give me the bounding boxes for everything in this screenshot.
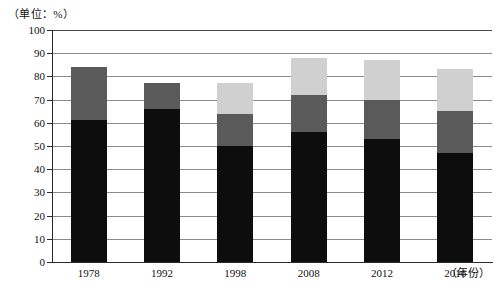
bar-segment-segment-3 [217, 83, 253, 113]
y-axis-tick-label: 60 [34, 117, 45, 128]
bar-segment-segment-1 [437, 153, 473, 262]
y-axis-tick-label: 100 [29, 25, 46, 36]
y-axis-unit-label: （单位：%） [8, 8, 74, 21]
bar-segment-segment-2 [144, 83, 180, 109]
bar-segment-segment-1 [217, 146, 253, 262]
bar-group [437, 30, 473, 262]
y-axis-tick-label: 50 [34, 141, 45, 152]
y-axis-tick-label: 90 [34, 48, 45, 59]
bar-segment-segment-2 [364, 100, 400, 139]
bar-segment-segment-2 [71, 67, 107, 120]
bar-group [71, 30, 107, 262]
y-axis-line [52, 30, 53, 263]
bar-segment-segment-1 [71, 120, 107, 262]
y-axis-tick-label: 10 [34, 233, 45, 244]
x-axis-tick-label: 2008 [298, 266, 320, 280]
y-axis-tick-label: 40 [34, 164, 45, 175]
y-axis-tick-label: 30 [34, 187, 45, 198]
bar-segment-segment-3 [364, 60, 400, 99]
bar-segment-segment-1 [291, 132, 327, 262]
y-axis-tick-label: 20 [34, 210, 45, 221]
bar-segment-segment-2 [217, 114, 253, 146]
y-axis-tick-label: 80 [34, 71, 45, 82]
stacked-bar-chart: （单位：%） 0102030405060708090100 1978199219… [0, 0, 501, 290]
y-axis-tick-label: 70 [34, 94, 45, 105]
bar-group [291, 30, 327, 262]
bar-segment-segment-2 [291, 95, 327, 132]
x-axis-unit-label: （年份） [446, 266, 490, 280]
bar-group [144, 30, 180, 262]
y-axis-tick-label: 0 [40, 257, 46, 268]
bar-segment-segment-1 [144, 109, 180, 262]
x-axis-tick-label: 1998 [224, 266, 246, 280]
x-axis-tick-label: 1978 [78, 266, 100, 280]
bar-group [217, 30, 253, 262]
x-axis-line [52, 262, 493, 263]
bar-group [364, 30, 400, 262]
bar-segment-segment-3 [437, 69, 473, 111]
bars-layer [52, 30, 492, 262]
x-axis-tick-label: 2012 [371, 266, 393, 280]
bar-segment-segment-3 [291, 58, 327, 95]
bar-segment-segment-1 [364, 139, 400, 262]
bar-segment-segment-2 [437, 111, 473, 153]
plot-area: 0102030405060708090100 [52, 30, 492, 262]
x-axis-tick-labels: 197819921998200820122016 [52, 266, 492, 286]
x-axis-tick-label: 1992 [151, 266, 173, 280]
